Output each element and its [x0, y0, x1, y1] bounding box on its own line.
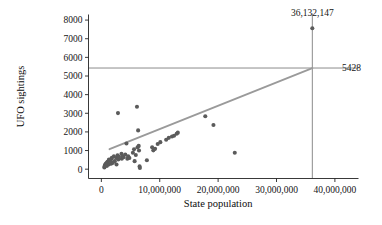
- data-point: [124, 141, 128, 145]
- y-axis-title: UFO sightings: [15, 66, 26, 128]
- x-axis-tick-label: 20,000,000: [197, 185, 240, 195]
- data-points-group: [102, 26, 314, 170]
- y-axis-tick-label: 6000: [64, 53, 83, 63]
- data-point: [137, 148, 141, 152]
- data-point: [135, 105, 139, 109]
- y-axis-tick-label: 1000: [64, 146, 83, 156]
- data-point: [310, 26, 314, 30]
- data-point: [136, 128, 140, 132]
- annotations-group: 36,132,1475428: [291, 8, 361, 73]
- data-point: [134, 153, 138, 157]
- data-point: [145, 158, 149, 162]
- data-point: [133, 159, 137, 163]
- y-axis-tick-label: 8000: [64, 15, 83, 25]
- reference-lines-group: [89, 14, 359, 179]
- x-axis-tick-label: 40,000,000: [314, 185, 357, 195]
- y-axis-tick-label: 7000: [64, 34, 83, 44]
- data-point: [132, 147, 136, 151]
- data-point: [116, 111, 120, 115]
- x-axis-title: State population: [184, 198, 253, 209]
- regression-trend-line: [110, 68, 313, 149]
- data-point: [114, 162, 118, 166]
- y-axis-tick-label: 4000: [64, 90, 83, 100]
- data-point: [211, 123, 215, 127]
- x-axis-tick-label: 10,000,000: [138, 185, 181, 195]
- clipped-page-text: [0, 213, 382, 225]
- prediction-annotation: 5428: [342, 63, 361, 73]
- population-annotation: 36,132,147: [291, 8, 334, 18]
- data-point: [176, 131, 180, 135]
- y-axis-tick-label: 0: [78, 165, 83, 175]
- data-point: [153, 147, 157, 151]
- data-point: [203, 114, 207, 118]
- data-point: [138, 166, 142, 170]
- x-axis-tick-label: 0: [99, 185, 104, 195]
- data-point: [137, 144, 141, 148]
- ufo-sightings-scatter-chart: 010002000300040005000600070008000010,000…: [0, 0, 382, 225]
- x-axis-tick-label: 30,000,000: [255, 185, 298, 195]
- y-axis-tick-label: 2000: [64, 127, 83, 137]
- axes-group: 010002000300040005000600070008000010,000…: [15, 15, 359, 209]
- data-point: [158, 140, 162, 144]
- chart-canvas: 010002000300040005000600070008000010,000…: [0, 0, 382, 225]
- data-point: [233, 151, 237, 155]
- data-point: [127, 156, 131, 160]
- y-axis-tick-label: 5000: [64, 71, 83, 81]
- y-axis-tick-label: 3000: [64, 109, 83, 119]
